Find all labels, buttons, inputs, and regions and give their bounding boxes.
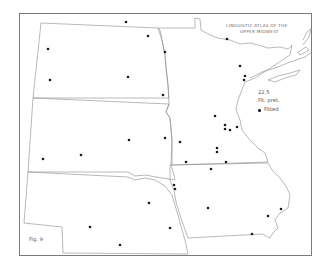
- survey-point-dot: [127, 76, 130, 79]
- survey-point-dot: [280, 208, 283, 211]
- survey-point-dot: [236, 126, 239, 129]
- survey-point-dot: [49, 79, 52, 82]
- survey-point-dot: [225, 161, 228, 164]
- legend-item-number: 22.5: [258, 89, 270, 95]
- legend-entry-label: Fitted: [264, 106, 279, 112]
- legend-heading: Fit, pret.: [258, 97, 280, 103]
- survey-point-dot: [216, 147, 219, 150]
- survey-point-dot: [244, 75, 247, 78]
- survey-point-dot: [214, 115, 217, 118]
- survey-point-dot: [224, 124, 227, 127]
- survey-point-dot: [210, 168, 213, 171]
- survey-point-dot: [174, 188, 177, 191]
- survey-point-dot: [125, 21, 128, 24]
- legend-dot-icon: [258, 109, 261, 112]
- survey-point-dot: [47, 48, 50, 51]
- survey-point-dot: [119, 244, 122, 247]
- survey-point-dot: [162, 94, 165, 97]
- survey-point-dot: [216, 151, 219, 154]
- atlas-title-line-1: Linguistic Atlas of the: [226, 23, 288, 28]
- survey-point-dot: [89, 226, 92, 229]
- survey-point-dot: [226, 38, 229, 41]
- figure-label: Fig. 9: [29, 236, 43, 242]
- survey-point-dot: [164, 51, 167, 54]
- survey-point-dot: [185, 161, 188, 164]
- survey-point-dot: [207, 207, 210, 210]
- survey-points: [0, 0, 331, 271]
- survey-point-dot: [128, 139, 131, 142]
- survey-point-dot: [251, 233, 254, 236]
- survey-point-dot: [224, 128, 227, 131]
- survey-point-dot: [179, 141, 182, 144]
- survey-point-dot: [239, 65, 242, 68]
- atlas-title-line-2: Upper Midwest: [240, 29, 279, 34]
- survey-point-dot: [80, 154, 83, 157]
- survey-point-dot: [147, 35, 150, 38]
- map-figure: Linguistic Atlas of the Upper Midwest 22…: [0, 0, 331, 271]
- survey-point-dot: [243, 79, 246, 82]
- survey-point-dot: [42, 158, 45, 161]
- survey-point-dot: [169, 227, 172, 230]
- survey-point-dot: [267, 215, 270, 218]
- survey-point-dot: [164, 137, 167, 140]
- survey-point-dot: [173, 184, 176, 187]
- survey-point-dot: [148, 202, 151, 205]
- survey-point-dot: [229, 129, 232, 132]
